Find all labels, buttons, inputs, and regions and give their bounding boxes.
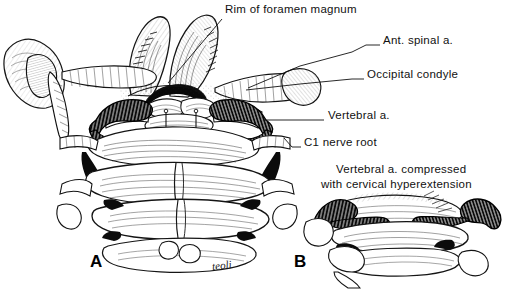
panel-a-drawing	[4, 15, 321, 272]
anatomical-figure: Rim of foramen magnum Ant. spinal a. Occ…	[0, 0, 506, 291]
transverse-process-left	[57, 204, 81, 229]
label-c1-nerve-root: C1 nerve root	[304, 136, 377, 148]
label-ant-spinal-artery: Ant. spinal a.	[383, 34, 453, 46]
transverse-process-right	[273, 204, 297, 229]
label-rim-of-foramen-magnum: Rim of foramen magnum	[225, 3, 357, 15]
label-vertebral-artery: Vertebral a.	[328, 109, 390, 121]
panel-letter-b: B	[294, 252, 306, 272]
artist-signature: teoli	[211, 258, 232, 272]
caption-line-2: with cervical hyperextension	[321, 178, 472, 190]
caption-line-1: Vertebral a. compressed	[336, 163, 466, 175]
label-occipital-condyle: Occipital condyle	[367, 68, 458, 80]
panel-b-drawing	[304, 191, 501, 288]
panel-letter-a: A	[90, 252, 102, 272]
